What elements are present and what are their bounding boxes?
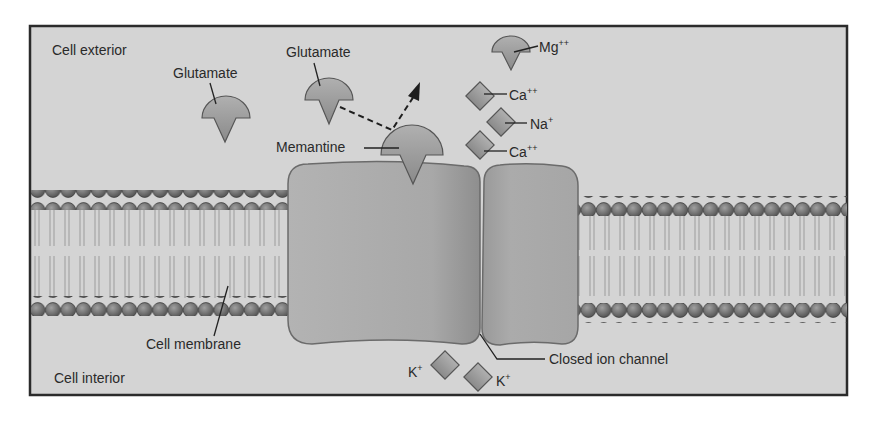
cell-exterior-label: Cell exterior [52, 42, 127, 58]
glutamate-label: Glutamate [173, 65, 238, 81]
memantine-label: Memantine [276, 139, 345, 155]
nmda-memantine-diagram: Glutamate Glutamate Memantine Mg++ Ca++ … [0, 0, 873, 423]
cell-membrane-right [576, 196, 847, 323]
glutamate-label: Glutamate [286, 44, 351, 60]
cell-interior-label: Cell interior [54, 370, 125, 386]
closed-ion-channel-label: Closed ion channel [549, 351, 668, 367]
closed-ion-channel [288, 161, 578, 345]
cell-membrane-label: Cell membrane [146, 336, 241, 352]
